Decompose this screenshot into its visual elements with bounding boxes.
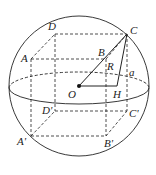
label-A-prime: A': [17, 136, 26, 147]
segment-HC: [117, 34, 127, 86]
label-A: A: [21, 53, 28, 64]
label-O: O: [68, 89, 76, 100]
label-R: R: [107, 61, 114, 72]
label-C-prime: C': [129, 108, 139, 119]
label-C: C: [130, 25, 137, 36]
label-a: a: [129, 67, 135, 78]
label-D-prime: D': [42, 105, 52, 116]
center-point-O: [77, 84, 81, 88]
label-B-prime: B': [104, 138, 113, 149]
equator-front: [9, 88, 149, 104]
label-H: H: [113, 89, 121, 100]
radius-OC: [79, 34, 127, 86]
label-B: B: [98, 47, 105, 58]
label-D: D: [48, 21, 56, 32]
diagram-canvas: D C A B R a O H D' C' A' B': [0, 0, 156, 175]
